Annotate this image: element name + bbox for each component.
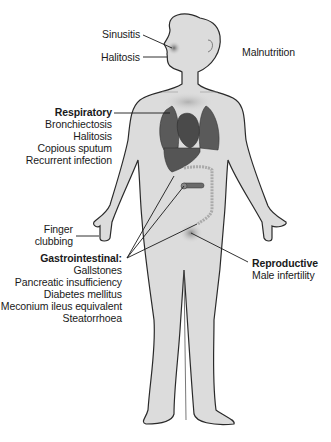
gastrointestinal-item: Diabetes mellitus	[1, 288, 122, 300]
reproductive-heading: Reproductive	[252, 257, 318, 269]
respiratory-item: Copious sputum	[26, 142, 112, 154]
respiratory-item: Bronchiectosis	[26, 118, 112, 130]
label-sinusitis: Sinusitis	[102, 28, 140, 40]
body-diagram	[0, 0, 331, 442]
finger-clubbing-line: clubbing	[35, 235, 73, 247]
finger-clubbing-group: Finger clubbing	[35, 223, 73, 247]
respiratory-item: Halitosis	[26, 130, 112, 142]
label-halitosis-head: Halitosis	[101, 51, 140, 63]
finger-clubbing-line: Finger	[35, 223, 73, 235]
gastrointestinal-item: Gallstones	[1, 264, 122, 276]
respiratory-group: Respiratory Bronchiectosis Halitosis Cop…	[26, 106, 112, 166]
gastrointestinal-item: Steatorrhoea	[1, 312, 122, 324]
sinus-highlight	[167, 41, 181, 55]
body-silhouette	[94, 14, 287, 425]
label-malnutrition: Malnutrition	[242, 46, 295, 58]
respiratory-item: Recurrent infection	[26, 154, 112, 166]
gastrointestinal-heading: Gastrointestinal:	[1, 252, 122, 264]
reproductive-group: Reproductive Male infertility	[252, 257, 318, 281]
gastrointestinal-group: Gastrointestinal: Gallstones Pancreatic …	[1, 252, 122, 324]
gastrointestinal-item: Meconium ileus equivalent	[1, 300, 122, 312]
gastrointestinal-item: Pancreatic insufficiency	[1, 276, 122, 288]
respiratory-heading: Respiratory	[26, 106, 112, 118]
reproductive-item: Male infertility	[252, 269, 318, 281]
